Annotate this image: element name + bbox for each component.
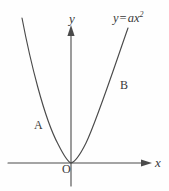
figure-canvas [0,0,169,191]
x-axis-arrowhead [141,159,152,166]
curve-equation-label: y=ax2 [113,11,143,25]
y-axis-arrowhead [67,25,74,36]
parabola-figure: y x O A B y=ax2 [0,0,169,191]
equation-exponent: 2 [139,10,143,19]
y-axis-label: y [69,12,75,25]
equation-lhs: y [113,11,119,25]
parabola-curve [22,18,128,163]
point-b-label: B [120,79,128,91]
equation-operator: = [119,11,128,25]
origin-label: O [62,163,71,175]
point-a-label: A [34,119,43,131]
x-axis-label: x [155,156,161,169]
